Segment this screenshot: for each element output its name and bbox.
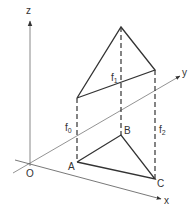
y-axis-label: y <box>182 67 187 78</box>
top-triangle <box>77 27 155 98</box>
base-triangle <box>77 135 155 179</box>
x-axis <box>15 160 161 199</box>
f2-label: f2 <box>159 124 166 136</box>
point-a-label: A <box>68 161 75 172</box>
f1-label: f1 <box>111 72 118 84</box>
point-c-label: C <box>157 178 164 189</box>
point-b-label: B <box>124 125 131 136</box>
x-axis-label: x <box>164 195 169 206</box>
z-axis-label: z <box>26 5 31 16</box>
origin-label: O <box>26 168 34 179</box>
f0-label: f0 <box>65 122 72 134</box>
diagram-canvas: z y x O A B C f0 f1 f2 <box>0 0 195 214</box>
